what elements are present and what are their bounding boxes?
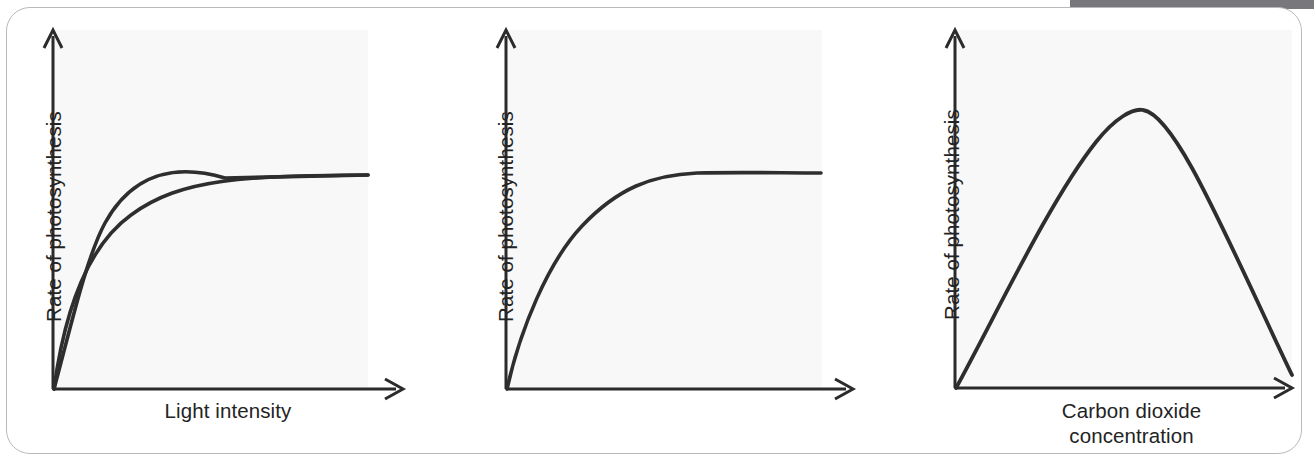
- y-axis-label: Rate of photosynthesis: [940, 109, 964, 320]
- chart-carbon-dioxide-concentration: Rate of photosynthesis Carbon dioxide co…: [452, 0, 902, 466]
- light-intensity-plot: [0, 0, 450, 466]
- y-axis-label: Rate of photosynthesis: [494, 111, 518, 322]
- x-axis-label: Light intensity: [53, 398, 403, 423]
- carbon-dioxide-plot: [452, 0, 902, 466]
- chart-light-intensity: Rate of photosynthesis Light intensity: [0, 0, 450, 466]
- y-axis-label: Rate of photosynthesis: [42, 111, 66, 322]
- plot-background: [53, 30, 368, 389]
- chart-temperature: Rate of photosynthesis Temperature: [900, 0, 1314, 466]
- figure-page: Rate of photosynthesis Light intensity R…: [0, 0, 1314, 466]
- plot-background: [506, 30, 822, 389]
- plot-background: [955, 30, 1292, 388]
